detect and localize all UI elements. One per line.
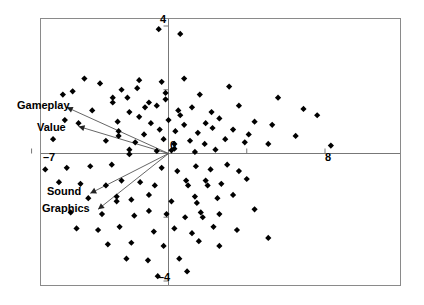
data-point [50, 136, 56, 142]
data-point [172, 128, 178, 134]
data-point [209, 125, 215, 131]
vector-line [79, 126, 169, 153]
data-point [87, 163, 93, 169]
data-point [192, 149, 198, 155]
data-point [168, 198, 174, 204]
data-point [103, 182, 109, 188]
data-point [187, 138, 193, 144]
data-point [116, 224, 122, 230]
data-point [314, 112, 320, 118]
data-point [134, 85, 140, 91]
data-point [118, 87, 124, 93]
data-point [161, 243, 167, 249]
data-point [246, 131, 252, 137]
data-point [97, 80, 103, 86]
data-point [110, 99, 116, 105]
data-point [269, 122, 275, 128]
data-point [182, 214, 188, 220]
data-point [265, 235, 271, 241]
data-point [184, 268, 190, 274]
vector-arrowhead [98, 203, 105, 209]
data-point [156, 26, 162, 32]
data-point [214, 195, 220, 201]
data-point [114, 198, 120, 204]
vector-label-value: Value [37, 122, 66, 133]
data-point [244, 176, 250, 182]
data-point [126, 109, 132, 115]
vector-line [98, 154, 168, 210]
data-point [128, 240, 134, 246]
data-point [159, 79, 165, 85]
data-point [203, 120, 209, 126]
data-point [142, 104, 148, 110]
data-point [131, 213, 137, 219]
y-axis-min-tick-label: –4 [158, 272, 170, 283]
data-point [230, 126, 236, 132]
data-point [123, 256, 129, 262]
data-point [216, 115, 222, 121]
data-point [212, 147, 218, 153]
data-point [189, 104, 195, 110]
data-point [165, 117, 171, 123]
data-point [194, 200, 200, 206]
data-point [136, 77, 142, 83]
x-axis-min-tick-label: –7 [43, 152, 55, 163]
data-point [210, 224, 216, 230]
data-point [174, 168, 180, 174]
data-point [95, 227, 101, 233]
vector-label-graphics: Graphics [42, 203, 90, 214]
data-point [226, 83, 232, 89]
data-point [152, 182, 158, 188]
data-point [85, 195, 91, 201]
vector-value [79, 125, 169, 153]
data-point [181, 122, 187, 128]
data-points [42, 26, 334, 279]
vector-graphics [98, 154, 168, 210]
data-point [42, 166, 48, 172]
data-point [195, 130, 201, 136]
data-point [251, 206, 257, 212]
scatter-plot-canvas [0, 0, 424, 305]
data-point [105, 241, 111, 247]
vector-line [90, 154, 168, 194]
vector-label-gameplay: Gameplay [17, 100, 70, 111]
data-point [154, 103, 160, 109]
data-point [146, 208, 152, 214]
data-point [162, 90, 168, 96]
data-point [103, 138, 109, 144]
data-point [193, 163, 199, 169]
data-point [300, 106, 306, 112]
data-point [157, 126, 163, 132]
data-point [145, 257, 151, 263]
data-point [124, 95, 130, 101]
data-point [192, 193, 198, 199]
data-point [146, 192, 152, 198]
data-point [208, 109, 214, 115]
data-point [75, 120, 81, 126]
data-point [275, 95, 281, 101]
x-axis-max-tick-label: 8 [325, 152, 331, 163]
data-point [161, 136, 167, 142]
data-point [64, 165, 70, 171]
data-point [196, 238, 202, 244]
data-point [189, 230, 195, 236]
data-point [197, 91, 203, 97]
data-point [99, 211, 105, 217]
origin-tick-label: 0 [170, 140, 176, 151]
data-point [251, 119, 257, 125]
data-point [328, 142, 334, 148]
data-point [234, 227, 240, 233]
data-point [293, 133, 299, 139]
data-point [151, 228, 157, 234]
data-point [181, 75, 187, 81]
data-point [109, 162, 115, 168]
data-point [236, 168, 242, 174]
data-point [137, 179, 143, 185]
data-point [141, 131, 147, 137]
data-point [128, 197, 134, 203]
data-point [148, 120, 154, 126]
data-point [81, 75, 87, 81]
data-point [115, 119, 121, 125]
data-point [177, 31, 183, 37]
data-point [162, 96, 168, 102]
